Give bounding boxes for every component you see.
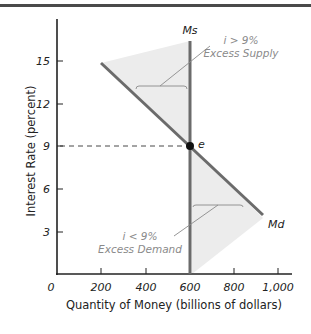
x-tick-label-1000: 1,000 [262,281,294,294]
excess-supply-region [101,41,190,146]
money-market-chart: 15 12 9 6 3 0 200 400 600 800 1,000 Quan… [0,0,311,334]
excess-supply-annotation-line2: Excess Supply [203,47,279,59]
md-label: Md [268,218,285,231]
equilibrium-point [186,142,194,150]
y-tick-label-3: 3 [43,226,50,239]
equilibrium-label: e [198,138,205,151]
excess-supply-annotation-line1: i > 9% [223,34,258,46]
x-tick-label-200: 200 [91,281,112,294]
excess-demand-region [190,146,263,274]
x-tick-label-0: 0 [48,281,55,294]
x-tick-label-600: 600 [180,281,201,294]
y-tick-label-15: 15 [36,55,50,68]
y-ticks [57,61,63,232]
x-axis-title: Quantity of Money (billions of dollars) [66,298,282,312]
x-tick-label-400: 400 [136,281,157,294]
excess-demand-annotation-line1: i < 9% [122,230,157,242]
y-tick-label-6: 6 [43,183,50,196]
y-axis-title: Interest Rate (percent) [24,85,38,216]
y-tick-label-9: 9 [43,140,50,153]
x-tick-label-800: 800 [224,281,245,294]
y-tick-label-12: 12 [36,98,50,111]
ms-label: Ms [182,24,197,37]
excess-demand-annotation-line2: Excess Demand [98,243,182,255]
